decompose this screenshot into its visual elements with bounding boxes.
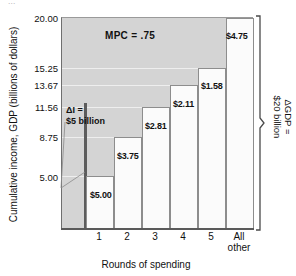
delta-gdp-line-2: $20 billion: [272, 96, 283, 139]
x-tick-2: 2: [113, 231, 141, 242]
x-axis-line: [61, 228, 254, 230]
value-label-round-5: $1.58: [201, 81, 223, 91]
x-tick-all-other: All other: [225, 231, 253, 253]
delta-gdp-annotation: ΔGDP = $20 billion: [272, 57, 294, 177]
x-tick-all-other-line-1: All: [233, 231, 244, 242]
mpc-annotation: MPC = .75: [105, 30, 155, 41]
delta-gdp-line-1: ΔGDP =: [283, 100, 294, 135]
x-tick-3: 3: [141, 231, 169, 242]
value-label-all-other: $4.75: [226, 31, 248, 41]
value-label-round-3: $2.81: [145, 121, 167, 131]
bar-round-1: [86, 176, 114, 229]
x-tick-4: 4: [169, 231, 197, 242]
bar-all-other: [226, 18, 254, 229]
value-label-round-1: $5.00: [90, 190, 112, 200]
delta-i-leader-line: [59, 118, 89, 198]
x-axis-title: Rounds of spending: [61, 259, 231, 270]
value-label-round-2: $3.75: [117, 151, 139, 161]
chart-figure: ... 20.00 15.25 13.67 11.56 8.75 5.00 Cu…: [0, 0, 296, 276]
bar-round-5: [198, 68, 226, 229]
value-label-round-4: $2.11: [173, 99, 194, 109]
y-axis-ticks: 20.00 15.25 13.67 11.56 8.75 5.00 Cumula…: [0, 0, 58, 276]
x-tick-all-other-line-2: other: [228, 242, 251, 253]
y-axis-title: Cumulative income, GDP (billions of doll…: [8, 15, 19, 235]
delta-i-line-1: ΔI =: [66, 105, 83, 115]
x-tick-1: 1: [85, 231, 113, 242]
x-tick-5: 5: [197, 231, 225, 242]
delta-gdp-brace: [254, 14, 266, 232]
